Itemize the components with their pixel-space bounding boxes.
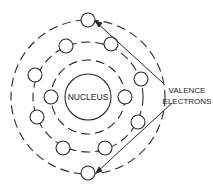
electron [56, 141, 70, 155]
atom-diagram: NUCLEUS VALENCE ELECTRONS [0, 0, 213, 194]
electron [44, 90, 58, 104]
electron [118, 90, 132, 104]
valence-label-line2: ELECTRONS [163, 97, 212, 106]
electron [131, 115, 145, 129]
valence-label-line1: VALENCE [169, 86, 206, 95]
valence-electron-top [81, 13, 95, 27]
electron [98, 141, 112, 155]
electron [134, 72, 148, 86]
valence-electron-bottom [81, 166, 95, 180]
electron [28, 68, 42, 82]
electron [59, 39, 73, 53]
nucleus-label: NUCLEUS [68, 92, 109, 102]
electron [30, 110, 44, 124]
callout-arrow-bottom [97, 103, 172, 172]
callout-arrow-top [96, 22, 163, 83]
electron [104, 37, 118, 51]
